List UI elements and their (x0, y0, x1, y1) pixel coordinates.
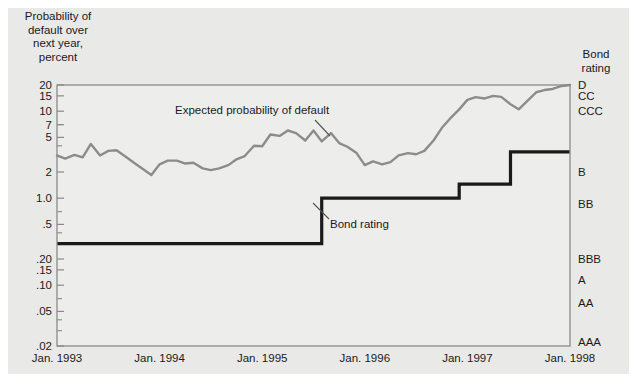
bond-rating-tick-label: AAA (578, 336, 601, 348)
y-axis-tick-label: 15 (39, 90, 52, 102)
bond-rating-tick-label: CCC (578, 105, 603, 117)
bond-rating-tick-label: BBB (578, 253, 601, 265)
chart-stage: Probability of default over next year, p… (0, 0, 637, 387)
x-axis-tick-label: Jan. 1993 (32, 352, 83, 364)
annotation-bond-rating: Bond rating (330, 218, 389, 230)
y-axis-tick-label: .5 (42, 218, 52, 230)
y-axis-tick-label: 2 (46, 166, 52, 178)
y-axis-tick-label: .15 (36, 264, 52, 276)
bond-rating-tick-labels: DCCCCCBBBBBBAAAAAA (578, 0, 634, 387)
bond-rating-tick-label: BB (578, 198, 593, 210)
x-axis-tick-label: Jan. 1995 (237, 352, 288, 364)
y-axis-tick-labels: 2015107521.0.5.20.15.10.05.02 (14, 0, 52, 387)
y-axis-tick-label: 10 (39, 105, 52, 117)
plot-area-background (57, 85, 570, 346)
y-axis-tick-label: .02 (36, 340, 52, 352)
x-axis-tick-labels: Jan. 1993Jan. 1994Jan. 1995Jan. 1996Jan.… (0, 352, 637, 372)
plot-svg (0, 0, 637, 387)
y-axis-tick-label: 1.0 (36, 192, 52, 204)
bond-rating-tick-label: AA (578, 297, 593, 309)
bond-rating-tick-label: B (578, 166, 586, 178)
bond-rating-tick-label: A (578, 274, 586, 286)
annotation-expected-probability-of-default: Expected probability of default (175, 104, 329, 116)
bond-rating-tick-label: CC (578, 90, 595, 102)
x-axis-tick-label: Jan. 1998 (545, 352, 596, 364)
x-axis-tick-label: Jan. 1997 (442, 352, 493, 364)
x-axis-tick-label: Jan. 1994 (134, 352, 185, 364)
x-axis-tick-label: Jan. 1996 (340, 352, 391, 364)
y-axis-tick-label: .05 (36, 305, 52, 317)
y-axis-tick-label: .10 (36, 279, 52, 291)
y-axis-tick-label: 7 (46, 119, 52, 131)
y-axis-tick-label: 5 (46, 131, 52, 143)
